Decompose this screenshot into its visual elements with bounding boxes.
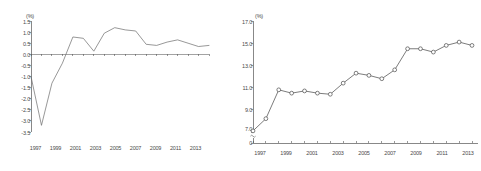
data-point-marker [419,47,423,51]
data-point-marker [251,129,255,133]
data-point-marker [277,88,281,92]
data-point-marker [470,44,474,48]
right-chart-plot [230,0,481,171]
chart-panel-left: (%) 1.5 1.0 0.5 0.0 -0.5 -1.0 -1.5 -2.0 … [0,0,230,171]
data-point-marker [393,68,397,72]
data-point-marker [457,40,461,44]
figure-container: (%) 1.5 1.0 0.5 0.0 -0.5 -1.0 -1.5 -2.0 … [0,0,481,171]
data-point-marker [303,89,307,93]
data-point-marker [380,77,384,81]
chart-panel-right: (%) 17.0 15.0 13.0 11.0 9.0 7.0 0 1997 1… [230,0,481,171]
data-point-marker [290,91,294,95]
data-point-marker [406,47,410,51]
data-point-marker [354,71,358,75]
data-series-line [253,42,472,131]
data-point-marker [444,44,448,48]
data-series-line [31,28,209,126]
data-point-marker [431,50,435,54]
data-point-marker [316,91,320,95]
left-chart-plot [0,0,230,171]
data-point-marker [341,81,345,85]
data-point-marker [367,73,371,77]
axis-break-icon [250,135,255,137]
data-point-marker [328,92,332,96]
data-point-marker [264,117,268,121]
